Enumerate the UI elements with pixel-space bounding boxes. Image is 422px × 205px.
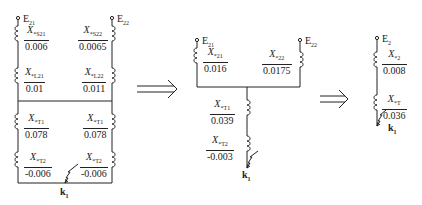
source-label-e22: E22 bbox=[117, 14, 129, 28]
reactance-xt1-right: X*T1 0.078 bbox=[83, 112, 108, 140]
reactance-xt2-left: X*T2 -0.006 bbox=[24, 151, 52, 179]
reactance-xt2-reduced: X*T2 -0.003 bbox=[206, 134, 234, 162]
source-label-e2: E2 bbox=[382, 34, 391, 48]
reactance-x2: X*2 0.008 bbox=[382, 48, 407, 76]
reactance-xt2-right: X*T2 -0.006 bbox=[80, 151, 108, 179]
source-label-e22-reduced: E22 bbox=[305, 36, 317, 50]
reactance-xt: X*T 0.036 bbox=[382, 93, 407, 121]
reactance-xt1-reduced: X*T1 0.039 bbox=[210, 98, 235, 126]
reactance-xs21: X*S21 0.006 bbox=[24, 24, 49, 52]
fault-label-k1-reduced: k1 bbox=[242, 170, 251, 184]
reactance-x21: X*21 0.016 bbox=[203, 46, 228, 74]
implies-arrow-2 bbox=[320, 90, 348, 108]
implies-arrow-1 bbox=[137, 80, 177, 98]
reactance-xl22: X*L22 0.011 bbox=[82, 66, 106, 94]
fault-label-k1: k1 bbox=[60, 187, 69, 201]
reactance-xs22: X*S22 0.0065 bbox=[78, 24, 108, 52]
reactance-xl21: X*L21 0.01 bbox=[24, 66, 45, 94]
reactance-x22: X*22 0.0175 bbox=[262, 48, 292, 76]
fault-label-k1-equivalent: k1 bbox=[388, 123, 397, 137]
reactance-xt1-left: X*T1 0.078 bbox=[24, 112, 49, 140]
